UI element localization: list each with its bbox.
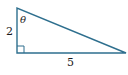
horizontal-side-label: 5 bbox=[67, 56, 74, 69]
angle-label: θ bbox=[20, 14, 26, 25]
right-angle-marker bbox=[17, 46, 24, 53]
triangle bbox=[17, 8, 126, 53]
triangle-diagram: 2 5 θ bbox=[0, 0, 128, 75]
vertical-side-label: 2 bbox=[6, 25, 13, 38]
